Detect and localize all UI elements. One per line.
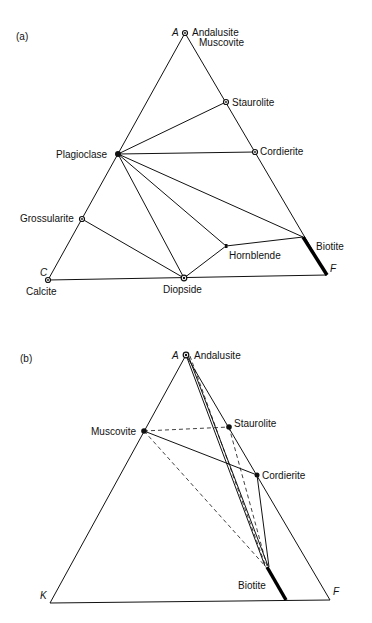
label-cordierite-b: Cordierite [262,470,306,481]
vertex-c: C [40,267,48,278]
vertex-f-b: F [333,586,340,597]
label-biotite-b: Biotite [238,580,266,591]
label-cordierite: Cordierite [260,146,304,157]
label-andalusite-b: Andalusite [194,350,241,361]
tie-andalusite-biotite-2 [188,355,268,566]
label-grossularite: Grossularite [20,213,74,224]
tie-plag-staurolite [118,102,226,154]
tie-andalusite-biotite-1 [186,355,265,566]
tie-plag-hornblende [118,154,226,246]
panel-label-b: (b) [20,353,32,364]
tie-plag-biotite [118,154,303,237]
label-hornblende: Hornblende [229,250,281,261]
label-biotite: Biotite [316,241,344,252]
diagram-b: (b) A Andalusite Muscovite Staurolite Co… [20,350,340,603]
point-staurolite-b [226,424,232,430]
panel-label-a: (a) [16,31,28,42]
label-plagioclase: Plagioclase [56,149,108,160]
vertex-a-b: A [171,350,179,361]
tie-andalusite-biotite-dashed [190,356,266,567]
label-staurolite-b: Staurolite [234,418,277,429]
vertex-k-b: K [40,590,48,601]
point-cordierite-b [255,473,260,478]
tie-staurolite-biotite [229,427,267,566]
tie-diopside-hornblende [184,246,226,278]
tie-muscovite-biotite [144,431,266,567]
point-hornblende [225,244,228,248]
vertex-f: F [330,263,337,274]
label-diopside: Diopside [163,284,202,295]
label-staurolite: Staurolite [232,97,275,108]
phase-diagrams: (a) A Andalusite Muscovite Stauroli [0,0,372,623]
biotite-solid-solution-b [267,567,286,600]
point-plagioclase [115,151,121,157]
point-muscovite-b [141,428,147,434]
tie-hornblende-biotite [226,237,303,246]
tie-plag-cordierite [118,152,255,154]
label-muscovite: Muscovite [199,37,244,48]
diagram-a: (a) A Andalusite Muscovite Stauroli [16,27,344,297]
vertex-a: A [171,27,179,38]
label-muscovite-b: Muscovite [91,426,136,437]
label-calcite: Calcite [26,286,57,297]
